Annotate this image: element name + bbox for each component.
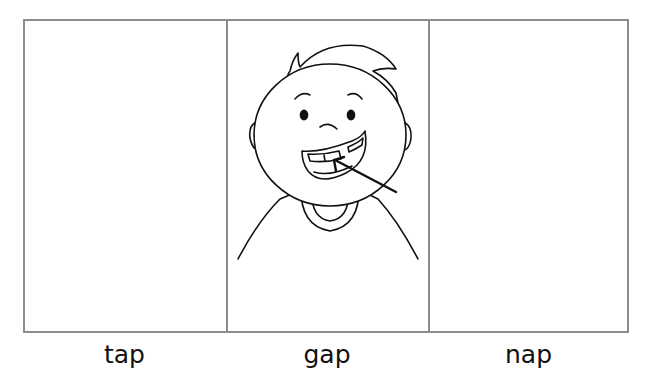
word-labels: tap gap nap bbox=[23, 340, 629, 370]
picture-cell-nap bbox=[430, 21, 627, 331]
picture-grid bbox=[23, 19, 629, 333]
boy-gap-tooth-icon bbox=[228, 21, 428, 331]
word-label-tap: tap bbox=[23, 340, 226, 370]
word-label-gap: gap bbox=[226, 340, 428, 370]
word-label-nap: nap bbox=[428, 340, 629, 370]
picture-cell-tap bbox=[25, 21, 228, 331]
picture-cell-gap bbox=[228, 21, 430, 331]
